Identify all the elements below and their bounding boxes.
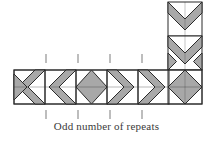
figure-root: Odd number of repeats bbox=[0, 0, 213, 141]
tick-marks-bottom bbox=[46, 110, 142, 119]
horizontal-strip bbox=[14, 70, 202, 104]
figure-caption: Odd number of repeats bbox=[0, 120, 213, 132]
tick-marks-top bbox=[46, 54, 142, 63]
